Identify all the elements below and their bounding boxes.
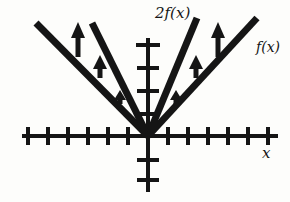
graph-figure: 2f(x) f(x) x <box>0 0 290 202</box>
arrow-head <box>189 55 203 69</box>
arrow-head <box>211 22 225 38</box>
arrow-head <box>170 90 182 100</box>
stretch-arrow-left-middle <box>93 55 107 78</box>
curve-label-fx: f(x) <box>256 40 280 54</box>
x-axis-label: x <box>262 146 270 161</box>
curve-2fx-left-ray <box>36 23 148 136</box>
stretch-arrow-left-outer <box>71 22 85 57</box>
curve-fx-left-ray <box>92 23 148 136</box>
curve-fx-right-ray <box>148 18 257 136</box>
arrow-head <box>93 55 107 69</box>
coordinate-plane-svg <box>0 0 290 202</box>
curve-label-2fx: 2f(x) <box>155 6 190 21</box>
arrow-head <box>71 22 85 38</box>
curve-2fx-right-ray <box>148 18 197 136</box>
